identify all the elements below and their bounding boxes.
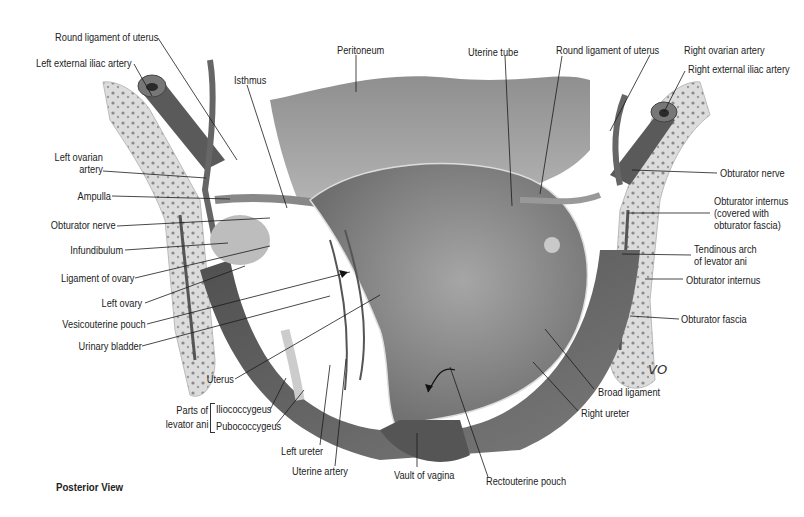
label-broad-ligament: Broad ligament — [598, 386, 660, 398]
label-rectouterine-pouch: Rectouterine pouch — [486, 475, 566, 487]
levator-ani-bracket — [210, 403, 215, 433]
view-caption: Posterior View — [56, 481, 123, 493]
label-peritoneum: Peritoneum — [337, 44, 384, 56]
label-obturator-internus-covered-line3: obturator fascia) — [714, 219, 781, 231]
pelvis-illustration: VO — [0, 0, 804, 517]
label-obturator-internus: Obturator internus — [686, 274, 760, 286]
label-infundibulum: Infundibulum — [70, 244, 123, 256]
right-ovary-shape — [544, 237, 560, 253]
anatomy-figure: VO Round ligament of uterus Left externa… — [0, 0, 804, 517]
label-parts-of-levator-ani-line1: Parts of — [176, 404, 208, 416]
label-left-ovarian-artery-line1: Left ovarian — [55, 151, 103, 163]
label-obturator-internus-covered-line1: Obturator internus — [714, 195, 788, 207]
label-left-external-iliac-artery: Left external iliac artery — [36, 57, 132, 69]
label-left-ureter: Left ureter — [281, 445, 323, 457]
label-parts-of-levator-ani-line2: levator ani — [165, 418, 208, 430]
label-uterine-artery: Uterine artery — [292, 465, 348, 477]
label-uterine-tube: Uterine tube — [468, 46, 518, 58]
label-vesicouterine-pouch: Vesicouterine pouch — [63, 318, 146, 330]
label-right-ureter: Right ureter — [581, 407, 629, 419]
label-obturator-fascia: Obturator fascia — [681, 313, 747, 325]
label-obturator-nerve-left: Obturator nerve — [51, 219, 116, 231]
label-left-ovarian-artery-line2: artery — [79, 163, 103, 175]
label-uterus: Uterus — [207, 373, 234, 385]
left-adnexa-shape — [210, 215, 270, 265]
label-ampulla: Ampulla — [78, 190, 111, 202]
artist-signature: VO — [648, 362, 667, 377]
label-round-ligament-left: Round ligament of uterus — [55, 31, 158, 43]
label-urinary-bladder: Urinary bladder — [79, 340, 142, 352]
label-round-ligament-right: Round ligament of uterus — [556, 44, 659, 56]
label-right-ovarian-artery: Right ovarian artery — [684, 44, 765, 56]
label-pubococcygeus: Pubococcygeus — [216, 420, 281, 432]
label-obturator-nerve-right: Obturator nerve — [720, 167, 785, 179]
label-left-ovary: Left ovary — [101, 297, 142, 309]
label-ligament-of-ovary: Ligament of ovary — [61, 272, 134, 284]
label-tendinous-arch-line1: Tendinous arch — [694, 243, 757, 255]
label-isthmus: Isthmus — [234, 74, 266, 86]
label-vault-of-vagina: Vault of vagina — [394, 469, 454, 481]
label-right-external-iliac-artery: Right external iliac artery — [688, 63, 790, 75]
label-obturator-internus-covered-line2: (covered with — [714, 207, 769, 219]
label-iliococcygeus: Iliococcygeus — [216, 403, 271, 415]
label-tendinous-arch-line2: of levator ani — [694, 255, 747, 267]
